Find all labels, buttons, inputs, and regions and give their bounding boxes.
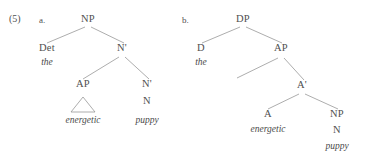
edge-abar-np: [305, 94, 338, 109]
np-analysis-tree-np-root: NP: [81, 14, 95, 25]
dp-analysis-tree-ap-node: AP: [274, 43, 288, 54]
np-analysis-tree-ap-node: AP: [76, 79, 90, 90]
tree-0-ap-triangle: [71, 97, 95, 112]
np-analysis-tree-terminal-puppy: puppy: [135, 116, 158, 126]
example-number: (5): [9, 13, 21, 24]
dp-analysis-tree-abar-node: A': [297, 80, 307, 91]
dp-analysis-tree-terminal-energetic: energetic: [251, 125, 286, 135]
edge-dp-d: [202, 27, 240, 43]
np-analysis-tree-terminal-energetic: energetic: [66, 116, 101, 126]
np-analysis-tree-n-node: N: [143, 96, 151, 107]
edge-np-det: [47, 27, 85, 43]
np-analysis-tree-nbar-upper-node: N': [117, 43, 127, 54]
edge-nbar-nbar: [125, 57, 149, 79]
edge-nbar-ap: [83, 57, 119, 79]
np-analysis-tree-terminal-the: the: [41, 58, 53, 68]
dp-analysis-tree-a-node: A: [264, 109, 272, 120]
dp-analysis-tree-d-node: D: [197, 43, 205, 54]
edge-dp-ap: [246, 27, 282, 43]
dp-analysis-tree-n-node: N: [333, 125, 341, 136]
syntax-tree-diagram: [0, 0, 379, 165]
dp-analysis-tree-terminal-puppy: puppy: [325, 142, 348, 152]
edge-np-nbar: [91, 27, 124, 43]
dp-analysis-tree-np-node: NP: [330, 109, 344, 120]
np-analysis-tree-det-node: Det: [39, 43, 55, 54]
tree-sub-label-b: b.: [182, 15, 189, 25]
dp-analysis-tree-terminal-the: the: [195, 58, 207, 68]
edge-ap-spec: [237, 58, 278, 78]
tree-sub-label-a: a.: [39, 15, 45, 25]
edge-ap-abar: [284, 58, 304, 80]
edge-abar-a: [268, 94, 299, 109]
dp-analysis-tree-dp-root: DP: [236, 14, 250, 25]
np-analysis-tree-nbar-lower-node: N': [142, 79, 152, 90]
